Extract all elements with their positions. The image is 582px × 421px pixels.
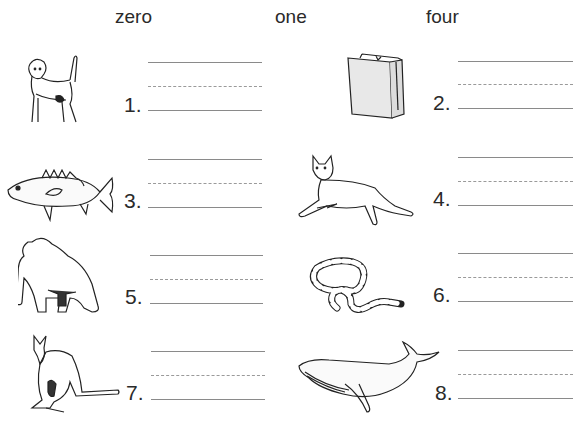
- gorilla-icon: [18, 236, 104, 316]
- answer-line-base[interactable]: [458, 108, 573, 109]
- answer-line-midline[interactable]: [148, 183, 262, 184]
- answer-line-top[interactable]: [458, 350, 573, 351]
- answer-line-midline[interactable]: [458, 181, 573, 182]
- answer-line-base[interactable]: [151, 399, 265, 400]
- item-number: 6.: [433, 283, 451, 307]
- answer-line-top[interactable]: [150, 255, 263, 256]
- item-number: 1.: [124, 93, 142, 117]
- item-number: 7.: [126, 381, 144, 405]
- kangaroo-icon: [26, 332, 126, 414]
- exercise-item-5: 5.: [0, 232, 291, 328]
- paper-bag-icon: [346, 52, 408, 124]
- item-number: 4.: [433, 187, 451, 211]
- answer-line-top[interactable]: [458, 157, 573, 158]
- exercise-item-2: 2.: [291, 40, 582, 136]
- item-number: 3.: [124, 189, 142, 213]
- word-bank-one: one: [275, 6, 307, 28]
- answer-line-top[interactable]: [148, 159, 262, 160]
- exercise-item-7: 7.: [0, 328, 291, 421]
- item-number: 8.: [435, 381, 453, 405]
- item-number: 2.: [433, 91, 451, 115]
- answer-line-midline[interactable]: [151, 375, 265, 376]
- whale-icon: [297, 340, 443, 416]
- answer-line-midline[interactable]: [458, 277, 573, 278]
- answer-line-base[interactable]: [150, 303, 263, 304]
- exercise-item-3: 3.: [0, 136, 291, 232]
- answer-line-midline[interactable]: [150, 279, 263, 280]
- fish-icon: [6, 166, 118, 226]
- answer-line-base[interactable]: [458, 301, 573, 302]
- answer-line-midline[interactable]: [458, 374, 573, 375]
- exercise-item-6: 6.: [291, 232, 582, 328]
- exercise-item-1: 1.: [0, 40, 291, 136]
- answer-line-base[interactable]: [148, 110, 262, 111]
- word-bank-zero: zero: [115, 6, 152, 28]
- exercise-item-8: 8.: [291, 328, 582, 421]
- exercise-item-4: 4.: [291, 136, 582, 232]
- answer-line-top[interactable]: [148, 62, 262, 63]
- cat-icon: [297, 148, 425, 228]
- answer-line-base[interactable]: [458, 205, 573, 206]
- word-bank-four: four: [426, 6, 459, 28]
- item-number: 5.: [125, 285, 143, 309]
- answer-line-base[interactable]: [148, 207, 262, 208]
- dog-icon: [22, 54, 82, 124]
- answer-line-top[interactable]: [458, 61, 573, 62]
- answer-line-midline[interactable]: [148, 86, 262, 87]
- answer-line-top[interactable]: [458, 253, 573, 254]
- answer-line-midline[interactable]: [458, 84, 573, 85]
- answer-line-top[interactable]: [151, 351, 265, 352]
- answer-line-base[interactable]: [458, 398, 573, 399]
- snake-icon: [307, 252, 419, 322]
